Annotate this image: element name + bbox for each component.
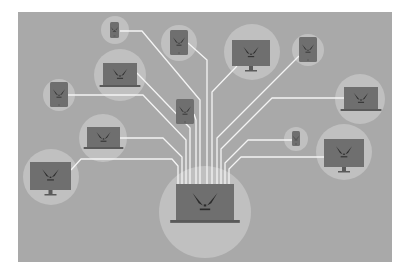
mouth-icon <box>200 209 210 211</box>
stand <box>49 190 53 194</box>
screen <box>232 40 270 66</box>
keyboard-base <box>170 220 240 223</box>
home-button <box>307 60 309 61</box>
nose-icon <box>360 99 361 100</box>
screen <box>103 63 137 85</box>
nose-icon <box>58 95 59 96</box>
tablet-icon <box>176 99 194 124</box>
phone-icon <box>110 22 119 38</box>
laptop-icon <box>341 87 382 111</box>
home-button <box>114 36 116 37</box>
body <box>299 37 317 62</box>
mouth-icon <box>177 45 182 46</box>
mouth-icon <box>101 141 107 142</box>
mouth-icon <box>358 102 364 103</box>
tablet-icon <box>170 30 188 55</box>
body <box>170 30 188 55</box>
nose-icon <box>114 30 115 31</box>
mouth-icon <box>341 156 348 157</box>
mouth-icon <box>47 179 54 180</box>
nose-icon <box>119 75 120 76</box>
mouth-icon <box>183 114 188 115</box>
laptop-icon <box>100 63 141 87</box>
nose-icon <box>307 50 308 51</box>
keyboard-base <box>84 147 124 149</box>
nose-icon <box>103 138 104 139</box>
home-button <box>178 53 180 54</box>
laptop-icon <box>84 127 124 149</box>
home-button <box>184 122 186 123</box>
screen <box>344 87 378 109</box>
stand-base <box>45 194 57 196</box>
nose-icon <box>184 112 185 113</box>
nose-icon <box>296 139 297 140</box>
nose-icon <box>343 154 345 155</box>
tablet-icon <box>50 82 68 107</box>
mouth-icon <box>113 31 116 32</box>
screen <box>176 184 234 220</box>
keyboard-base <box>100 85 141 87</box>
stand <box>249 66 253 70</box>
nose-icon <box>204 204 206 206</box>
keyboard-base <box>341 109 382 111</box>
hub-laptop <box>170 184 240 223</box>
body <box>176 99 194 124</box>
body <box>50 82 68 107</box>
nose-icon <box>250 54 252 55</box>
stand <box>342 167 346 171</box>
mouth-icon <box>248 56 254 57</box>
network-illustration <box>0 0 411 275</box>
home-button <box>58 105 60 106</box>
phone-icon <box>292 131 300 146</box>
stand-base <box>245 70 257 72</box>
mouth-icon <box>57 97 62 98</box>
screen <box>30 162 71 190</box>
mouth-icon <box>306 52 311 53</box>
nose-icon <box>178 43 179 44</box>
tablet-icon <box>299 37 317 62</box>
screen <box>324 139 364 167</box>
home-button <box>295 144 297 145</box>
screen <box>87 127 120 147</box>
nose-icon <box>50 177 52 178</box>
stand-base <box>338 171 350 173</box>
laptop-icon <box>170 184 240 223</box>
mouth-icon <box>117 78 123 79</box>
